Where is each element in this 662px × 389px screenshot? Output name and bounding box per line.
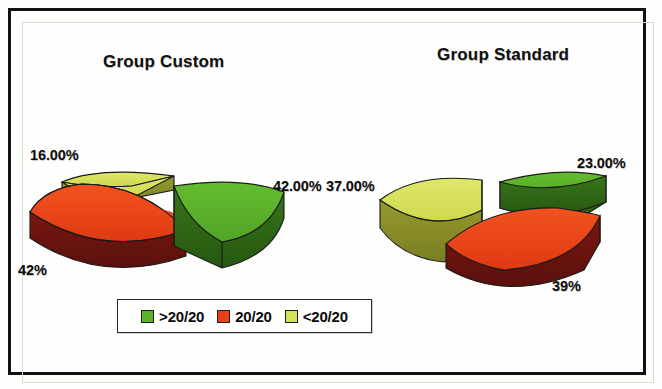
pie-label-standard-lt2020: 37.00% (326, 178, 375, 194)
legend-label-worse: <20/20 (303, 308, 348, 325)
pie-chart-group-standard (372, 152, 642, 297)
slice-custom-gt2020 (174, 182, 284, 268)
legend-swatch-equal-icon (217, 310, 230, 323)
legend-item-equal: 20/20 (217, 308, 272, 325)
pie-label-custom-eq2020: 42% (18, 262, 47, 278)
pie-label-custom-gt2020: 42.00% (273, 178, 322, 194)
pie-label-custom-lt2020: 16.00% (30, 147, 79, 163)
chart-legend: >20/20 20/20 <20/20 (117, 299, 372, 333)
legend-item-better: >20/20 (141, 308, 204, 325)
legend-swatch-better-icon (141, 310, 154, 323)
chart-title-group-custom: Group Custom (103, 52, 224, 72)
pie-label-standard-gt2020: 23.00% (577, 155, 626, 171)
slice-custom-eq2020 (30, 184, 186, 268)
chart-image-root: Group Custom Group Standard (0, 0, 662, 389)
legend-label-equal: 20/20 (235, 308, 272, 325)
legend-item-worse: <20/20 (285, 308, 348, 325)
pie-label-standard-eq2020: 39% (552, 278, 581, 294)
pie-chart-group-custom (22, 152, 297, 292)
legend-label-better: >20/20 (159, 308, 204, 325)
chart-title-group-standard: Group Standard (437, 45, 569, 65)
legend-swatch-worse-icon (285, 310, 298, 323)
